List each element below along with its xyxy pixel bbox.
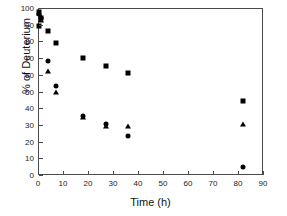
y-axis-tick — [39, 75, 43, 76]
data-point-square — [103, 64, 108, 69]
deuterium-scatter-chart: 0102030405060708090010203040506070809010… — [0, 0, 287, 216]
data-point-circle — [46, 59, 51, 64]
data-point-triangle — [80, 114, 86, 119]
data-point-circle — [126, 134, 131, 139]
data-point-circle — [241, 165, 246, 170]
x-axis-tick-label: 60 — [184, 179, 193, 188]
x-axis-tick — [213, 171, 214, 175]
y-axis-tick-label: 10 — [12, 154, 34, 163]
data-point-triangle — [38, 17, 44, 22]
y-axis-tick-label: 0 — [12, 171, 34, 180]
y-axis-tick — [39, 108, 43, 109]
x-axis-tick — [138, 171, 139, 175]
x-axis-tick-label: 90 — [259, 179, 268, 188]
x-axis-tick-label: 80 — [234, 179, 243, 188]
x-axis-tick — [163, 171, 164, 175]
data-point-square — [46, 29, 51, 34]
data-point-triangle — [53, 90, 59, 95]
x-axis-tick — [188, 171, 189, 175]
y-axis-tick — [39, 158, 43, 159]
y-axis-tick-label: 20 — [12, 137, 34, 146]
data-point-square — [241, 98, 246, 103]
x-axis-tick-label: 50 — [159, 179, 168, 188]
data-point-triangle — [36, 11, 42, 16]
y-axis-tick — [39, 25, 43, 26]
x-axis-tick — [113, 171, 114, 175]
y-axis-tick — [39, 8, 43, 9]
y-axis-tick — [39, 92, 43, 93]
data-point-square — [126, 70, 131, 75]
x-axis-label: Time (h) — [38, 196, 263, 208]
x-axis-tick — [88, 171, 89, 175]
x-axis-tick — [263, 171, 264, 175]
data-point-square — [53, 41, 58, 46]
y-axis-tick — [39, 175, 43, 176]
data-point-square — [80, 56, 85, 61]
y-axis-label: % of Deuterium — [20, 0, 32, 126]
x-axis-tick-label: 20 — [84, 179, 93, 188]
data-point-triangle — [103, 123, 109, 128]
y-axis-tick — [39, 125, 43, 126]
x-axis-tick-label: 30 — [109, 179, 118, 188]
x-axis-tick-label: 10 — [59, 179, 68, 188]
data-point-triangle — [125, 123, 131, 128]
x-axis-tick-label: 0 — [36, 179, 40, 188]
data-point-circle — [53, 84, 58, 89]
data-point-triangle — [45, 68, 51, 73]
x-axis-tick-label: 70 — [209, 179, 218, 188]
y-axis-tick — [39, 58, 43, 59]
data-point-triangle — [240, 121, 246, 126]
x-axis-tick — [63, 171, 64, 175]
y-axis-tick — [39, 142, 43, 143]
x-axis-tick-label: 40 — [134, 179, 143, 188]
x-axis-tick — [238, 171, 239, 175]
plot-area — [38, 8, 263, 175]
y-axis-tick — [39, 41, 43, 42]
